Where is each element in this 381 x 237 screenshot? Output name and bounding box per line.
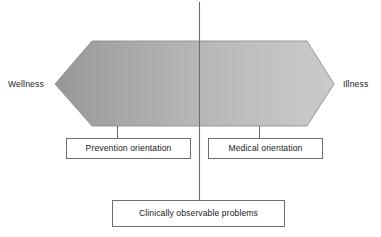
illness-endpoint-label: Illness: [343, 80, 368, 89]
prevention-orientation-box: Prevention orientation: [66, 138, 191, 159]
prevention-orientation-label: Prevention orientation: [86, 144, 172, 153]
medical-orientation-box: Medical orientation: [208, 138, 323, 159]
clinically-observable-problems-box: Clinically observable problems: [112, 200, 285, 227]
wellness-endpoint-label: Wellness: [8, 80, 44, 89]
continuum-diagram: Wellness Illness Prevention orientation …: [0, 0, 381, 237]
clinically-observable-problems-label: Clinically observable problems: [139, 209, 258, 218]
medical-orientation-label: Medical orientation: [228, 144, 302, 153]
continuum-band: [55, 41, 334, 126]
